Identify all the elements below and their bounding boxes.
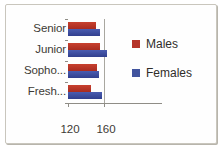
category-tick-1 — [65, 40, 68, 41]
value-tick-120 — [68, 103, 69, 107]
chart-legend: Males Females — [132, 37, 216, 95]
females-color-swatch-icon — [132, 69, 140, 77]
category-label-sophomore: Sopho... — [10, 64, 66, 76]
bar-freshman-males[interactable] — [68, 85, 91, 92]
bar-sophomore-females[interactable] — [68, 71, 99, 78]
gridline-160 — [104, 19, 105, 103]
chart-frame: Senior Junior Sopho... Fresh... — [5, 4, 217, 144]
value-tick-label-160: 160 — [96, 123, 115, 135]
bar-senior-females[interactable] — [68, 29, 100, 36]
category-label-freshman: Fresh... — [10, 85, 66, 97]
males-color-swatch-icon — [132, 40, 140, 48]
bar-chart: Senior Junior Sopho... Fresh... — [6, 5, 218, 145]
legend-label-males: Males — [146, 37, 178, 51]
value-axis-line — [68, 103, 162, 104]
category-axis-labels: Senior Junior Sopho... Fresh... — [8, 19, 66, 103]
category-tick-3 — [65, 82, 68, 83]
value-tick-160 — [104, 103, 105, 107]
legend-item-males[interactable]: Males — [132, 37, 216, 51]
legend-label-females: Females — [146, 66, 192, 80]
category-label-junior: Junior — [10, 43, 66, 55]
category-tick-0 — [65, 19, 68, 20]
category-tick-2 — [65, 61, 68, 62]
bar-senior-males[interactable] — [68, 22, 96, 29]
bar-freshman-females[interactable] — [68, 92, 102, 99]
bar-sophomore-males[interactable] — [68, 64, 97, 71]
bar-junior-males[interactable] — [68, 43, 100, 50]
category-label-senior: Senior — [10, 22, 66, 34]
value-tick-label-120: 120 — [60, 123, 79, 135]
bar-junior-females[interactable] — [68, 50, 107, 57]
legend-item-females[interactable]: Females — [132, 66, 216, 80]
